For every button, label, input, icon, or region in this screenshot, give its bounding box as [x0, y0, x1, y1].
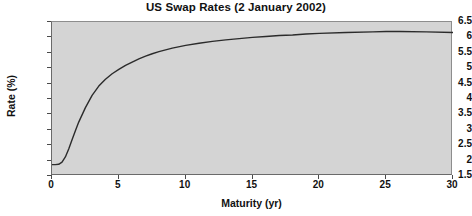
- y-tick-mark: [47, 52, 51, 53]
- chart-figure: US Swap Rates (2 January 2002) Rate (%) …: [0, 0, 472, 216]
- x-tick-label: 10: [165, 180, 205, 190]
- y-axis-title: Rate (%): [5, 56, 17, 136]
- swap-rate-line-series: [52, 22, 453, 176]
- x-axis-title: Maturity (yr): [51, 197, 452, 209]
- x-tick-label: 0: [31, 180, 71, 190]
- y-tick-mark: [47, 83, 51, 84]
- y-tick-mark: [47, 36, 51, 37]
- x-tick-label: 20: [298, 180, 338, 190]
- x-tick-label: 25: [365, 180, 405, 190]
- x-tick-mark: [185, 175, 186, 179]
- y-tick-mark: [47, 98, 51, 99]
- x-tick-label: 15: [232, 180, 272, 190]
- x-tick-mark: [452, 175, 453, 179]
- x-tick-label: 5: [98, 180, 138, 190]
- y-tick-mark: [47, 160, 51, 161]
- y-tick-mark: [47, 21, 51, 22]
- y-tick-mark: [47, 113, 51, 114]
- y-tick-mark: [47, 144, 51, 145]
- x-tick-mark: [252, 175, 253, 179]
- chart-title: US Swap Rates (2 January 2002): [0, 1, 472, 13]
- swap-rate-curve: [52, 32, 453, 165]
- y-tick-mark: [47, 67, 51, 68]
- x-tick-label: 30: [432, 180, 472, 190]
- x-tick-mark: [118, 175, 119, 179]
- x-tick-mark: [385, 175, 386, 179]
- x-tick-mark: [51, 175, 52, 179]
- y-tick-mark: [47, 129, 51, 130]
- plot-area: [51, 21, 452, 175]
- x-tick-mark: [318, 175, 319, 179]
